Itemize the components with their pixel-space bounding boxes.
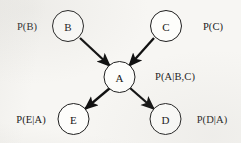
node-label-d: D [161, 114, 169, 126]
node-label-c: C [162, 21, 169, 33]
diagram-canvas: B C A E D P(B) P(C) P(A|B,C) P(E|A) P(D|… [0, 0, 241, 143]
probability-label-p-e-a: P(E|A) [16, 114, 46, 125]
probability-label-p-b: P(B) [17, 21, 37, 32]
edge-b-to-a [80, 38, 110, 66]
node-label-b: B [64, 21, 71, 33]
probability-label-p-d-a: P(D|A) [197, 114, 228, 125]
node-label-a: A [115, 72, 123, 84]
edge-a-to-d [130, 88, 154, 109]
edge-a-to-e [85, 88, 110, 109]
probability-label-p-a-bc: P(A|B,C) [155, 71, 195, 82]
edge-c-to-a [129, 38, 154, 66]
probability-label-p-c: P(C) [203, 21, 223, 32]
node-label-e: E [70, 114, 77, 126]
